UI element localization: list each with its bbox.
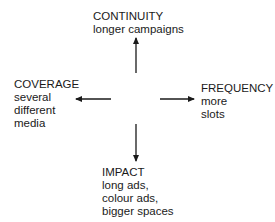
node-line: slots [201,108,273,121]
node-impact: IMPACT long ads, colour ads, bigger spac… [102,166,174,218]
node-continuity: CONTINUITY longer campaigns [93,10,184,36]
node-title: CONTINUITY [93,10,184,23]
node-frequency: FREQUENCY more slots [201,82,273,121]
node-title: IMPACT [102,166,174,179]
node-line: bigger spaces [102,205,174,218]
node-line: longer campaigns [93,23,184,36]
node-line: more [201,95,273,108]
node-coverage: COVERAGE several different media [14,78,79,130]
node-line: several [14,91,79,104]
node-line: media [14,117,79,130]
node-title: COVERAGE [14,78,79,91]
node-line: different [14,104,79,117]
node-line: colour ads, [102,192,174,205]
node-title: FREQUENCY [201,82,273,95]
node-line: long ads, [102,179,174,192]
